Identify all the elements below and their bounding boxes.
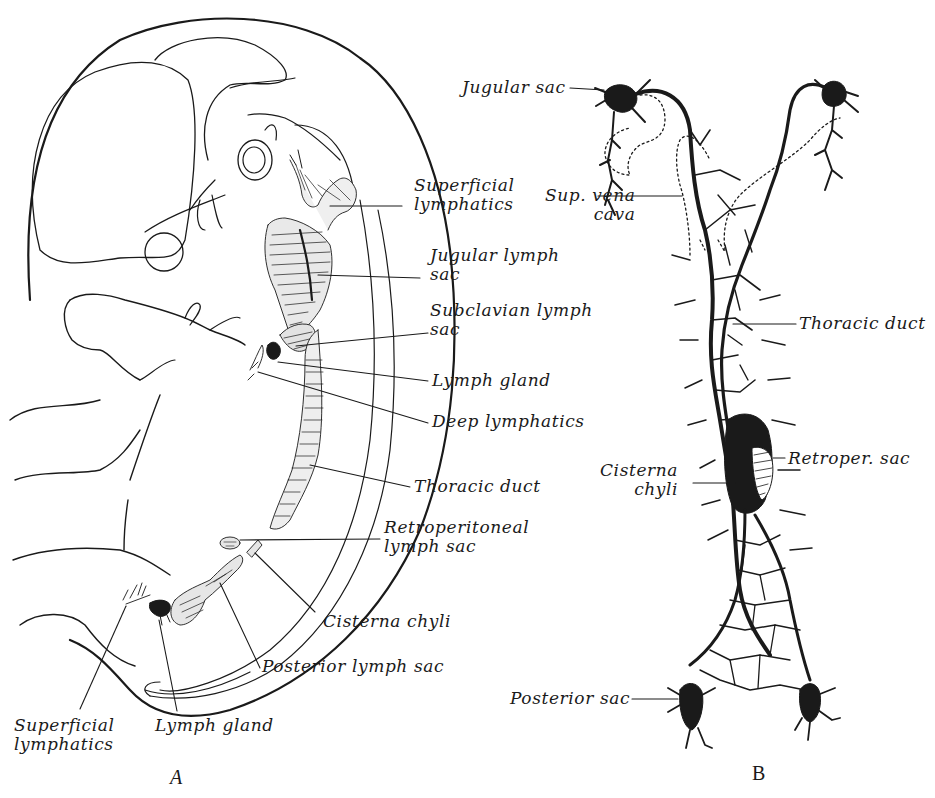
thoracic-duct-right-channel [722,84,826,440]
label-lymph-gland-upper: Lymph gland [432,371,551,390]
label-superficial-lymphatics-bottom: Superficial lymphatics [14,716,115,754]
lymphatic-development-figure: Superficial lymphatics Jugular lymph sac… [0,0,935,798]
label-lymph-gland-lower: Lymph gland [155,716,274,735]
panel-letter-a: A [170,766,182,789]
label-sup-vena-cava: Sup. vena cava [545,186,635,224]
label-cisterna-chyli-b: Cisterna chyli [600,461,678,499]
panel-letter-b: B [752,762,765,785]
label-retroper-sac: Retroper. sac [788,449,910,468]
label-posterior-lymph-sac: Posterior lymph sac [262,657,444,676]
jugular-sac-right [822,81,846,106]
label-posterior-sac: Posterior sac [510,689,630,708]
panel-b-leader-lines [570,88,796,699]
label-jugular-sac: Jugular sac [462,78,566,97]
posterior-sac-left [680,683,703,730]
label-superficial-lymphatics-top: Superficial lymphatics [414,176,515,214]
label-jugular-lymph-sac: Jugular lymph sac [430,246,560,284]
panel-b-schematic-drawing [0,0,935,798]
label-thoracic-duct-a: Thoracic duct [414,477,541,496]
posterior-sac-right [799,684,820,722]
label-thoracic-duct-b: Thoracic duct [799,314,926,333]
label-deep-lymphatics: Deep lymphatics [432,412,585,431]
label-cisterna-chyli-a: Cisterna chyli [323,612,451,631]
label-retroperitoneal-lymph-sac: Retroperitoneal lymph sac [384,518,529,556]
label-subclavian-lymph-sac: Subclavian lymph sac [430,301,593,339]
thoracic-duct-left-channel [636,91,770,655]
